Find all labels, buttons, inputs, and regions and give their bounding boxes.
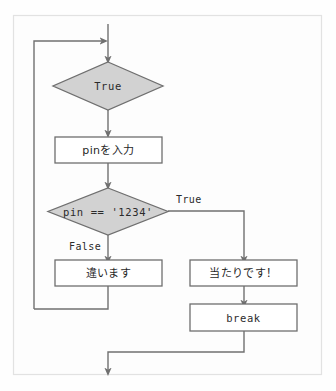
node-wrong[interactable]: 違います bbox=[55, 260, 162, 286]
input-pin-label: pinを入力 bbox=[82, 144, 134, 157]
flowchart-canvas: True pinを入力 pin == '1234' True False 違いま… bbox=[0, 0, 336, 391]
node-input-pin[interactable]: pinを入力 bbox=[55, 137, 162, 163]
check-pin-label: pin == '1234' bbox=[63, 206, 153, 218]
edge-label-false: False bbox=[69, 241, 101, 252]
loop-condition-label: True bbox=[94, 80, 122, 92]
wrong-label: 違います bbox=[86, 267, 132, 280]
node-correct[interactable]: 当たりです！ bbox=[190, 260, 297, 286]
break-label: break bbox=[226, 312, 261, 324]
flowchart-diagram: True pinを入力 pin == '1234' True False 違いま… bbox=[0, 0, 336, 391]
correct-label: 当たりです！ bbox=[209, 266, 277, 280]
edge-label-true: True bbox=[176, 194, 202, 205]
node-break[interactable]: break bbox=[190, 304, 297, 331]
